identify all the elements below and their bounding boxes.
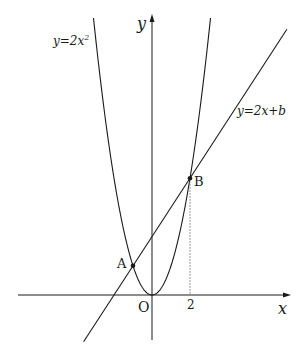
point-a (131, 264, 136, 269)
parabola-label: y=2x2 (52, 33, 89, 48)
graph-figure: A B O 2 x y y=2x2 y=2x+b (0, 0, 307, 357)
x-axis-label: x (278, 299, 287, 318)
line-label: y=2x+b (236, 104, 286, 118)
point-b (188, 176, 193, 181)
x-tick-label-2: 2 (187, 298, 195, 312)
origin-label: O (138, 299, 149, 315)
point-b-label: B (194, 174, 204, 189)
y-axis-label: y (136, 14, 147, 33)
point-a-label: A (116, 256, 127, 271)
